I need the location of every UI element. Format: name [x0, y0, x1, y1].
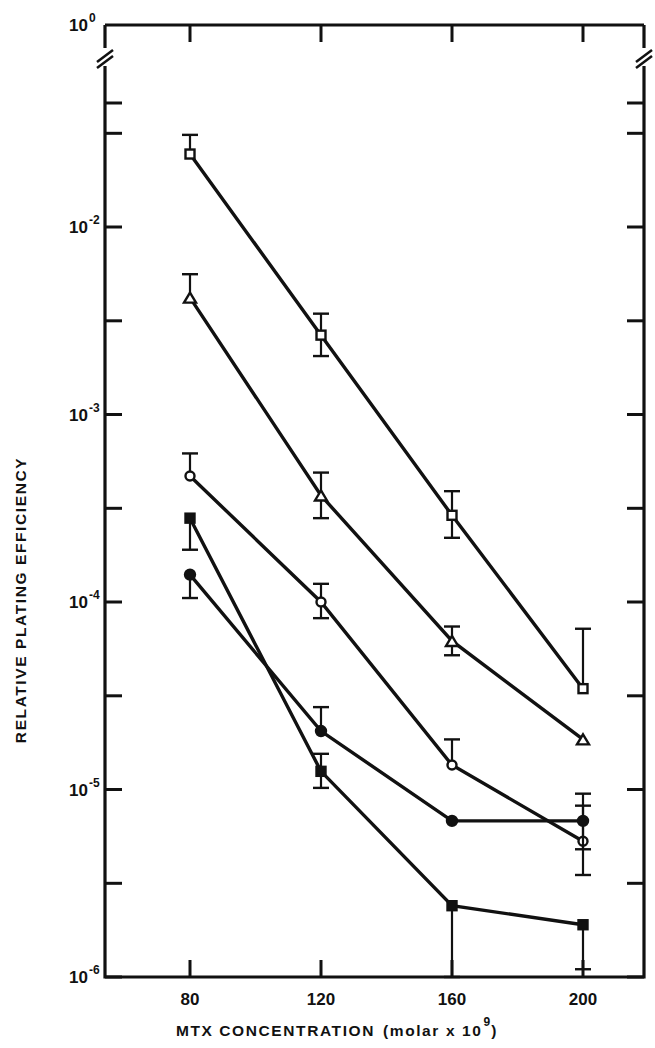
- data-point-marker: [447, 816, 457, 826]
- data-point-marker: [579, 684, 588, 693]
- series-open-square: [182, 135, 591, 693]
- x-axis-title-exponent: 9: [483, 1015, 490, 1029]
- y-tick-exponent: -5: [89, 776, 100, 790]
- series-line: [190, 476, 583, 841]
- data-point-marker: [184, 293, 196, 303]
- series-filled-circle: [182, 570, 591, 850]
- y-tick-exponent: -3: [89, 401, 100, 415]
- x-axis-title-close-paren: ): [491, 1022, 498, 1039]
- y-tick-label: 10: [69, 16, 88, 35]
- axis-break-marks: [97, 48, 652, 68]
- plot-frame: [105, 25, 644, 977]
- series-line: [190, 518, 583, 925]
- y-axis-ticks: [105, 103, 644, 977]
- x-axis-tick-labels: 80120160200: [181, 990, 598, 1009]
- data-point-marker: [316, 726, 326, 736]
- data-point-marker: [448, 511, 457, 520]
- y-tick-exponent: -2: [89, 213, 100, 227]
- relative-plating-efficiency-chart: 10010-210-310-410-510-6 80120160200 RELA…: [0, 0, 655, 1048]
- x-tick-label: 80: [181, 990, 200, 1009]
- y-tick-exponent: -4: [89, 588, 100, 602]
- y-tick-exponent: -6: [89, 963, 100, 977]
- y-tick-label: 10: [69, 406, 88, 425]
- series-line: [190, 154, 583, 689]
- data-point-marker: [579, 920, 588, 929]
- y-tick-label: 10: [69, 218, 88, 237]
- data-series-layer: [182, 135, 591, 977]
- data-point-marker: [448, 901, 457, 910]
- data-point-marker: [186, 150, 195, 159]
- data-point-marker: [448, 761, 457, 770]
- series-filled-square: [182, 514, 591, 977]
- y-tick-label: 10: [69, 781, 88, 800]
- data-point-marker: [317, 331, 326, 340]
- y-tick-exponent: 0: [89, 11, 96, 25]
- data-point-marker: [578, 816, 588, 826]
- series-open-triangle: [182, 274, 589, 744]
- y-axis-tick-labels: 10010-210-310-410-510-6: [69, 11, 100, 987]
- x-axis-title-main: MTX CONCENTRATION: [176, 1022, 375, 1039]
- data-point-marker: [186, 471, 195, 480]
- series-open-circle: [182, 453, 591, 875]
- x-axis-title-units: (molar x 10: [383, 1022, 482, 1039]
- y-tick-label: 10: [69, 968, 88, 987]
- x-tick-label: 200: [569, 990, 597, 1009]
- data-point-marker: [317, 598, 326, 607]
- x-tick-label: 120: [307, 990, 335, 1009]
- figure-container: 10010-210-310-410-510-6 80120160200 RELA…: [0, 0, 655, 1048]
- data-point-marker: [185, 570, 195, 580]
- x-axis-ticks: [190, 25, 583, 977]
- data-point-marker: [186, 514, 195, 523]
- series-line: [190, 298, 583, 740]
- y-axis-title: RELATIVE PLATING EFFICIENCY: [12, 457, 29, 743]
- data-point-marker: [317, 767, 326, 776]
- y-tick-label: 10: [69, 593, 88, 612]
- x-axis-title: MTX CONCENTRATION (molar x 10 9 ): [176, 1015, 498, 1039]
- x-tick-label: 160: [438, 990, 466, 1009]
